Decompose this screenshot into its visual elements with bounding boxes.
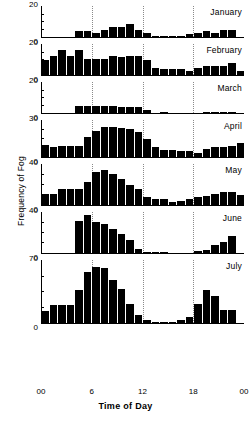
bar bbox=[118, 57, 126, 75]
bar bbox=[237, 71, 245, 76]
panel-month-label: May bbox=[225, 165, 242, 175]
bar bbox=[169, 36, 177, 38]
plot-area: March bbox=[41, 82, 244, 114]
bar bbox=[84, 137, 92, 157]
x-axis-spine bbox=[41, 253, 244, 254]
bar bbox=[135, 56, 143, 76]
y-tick-max: 40 bbox=[22, 159, 38, 167]
bar bbox=[67, 189, 75, 205]
bar bbox=[220, 30, 228, 38]
y-tick-max: 70 bbox=[22, 255, 38, 263]
bar bbox=[211, 112, 219, 114]
bar bbox=[109, 174, 117, 205]
bar bbox=[101, 224, 109, 253]
plot-area: May bbox=[41, 164, 244, 206]
bar bbox=[228, 30, 236, 38]
bar bbox=[228, 146, 236, 157]
x-axis-spine bbox=[41, 323, 244, 324]
x-axis-spine bbox=[41, 37, 244, 38]
bar bbox=[143, 320, 151, 323]
bar bbox=[58, 305, 66, 323]
x-tick-label: 12 bbox=[138, 387, 147, 396]
bar bbox=[143, 60, 151, 75]
bar bbox=[126, 24, 134, 38]
bar bbox=[101, 170, 109, 205]
bar bbox=[203, 31, 211, 37]
bar bbox=[126, 129, 134, 157]
x-tick-label: 00 bbox=[37, 387, 46, 396]
bar bbox=[228, 112, 236, 114]
bar bbox=[135, 107, 143, 113]
bar bbox=[228, 192, 236, 205]
bar bbox=[194, 197, 202, 205]
bar bbox=[75, 106, 83, 114]
bar bbox=[228, 310, 236, 323]
bar bbox=[186, 317, 194, 323]
bar bbox=[101, 106, 109, 114]
bar bbox=[92, 172, 100, 205]
panel-june: 400June bbox=[22, 212, 244, 258]
bar bbox=[75, 146, 83, 157]
bar bbox=[67, 305, 75, 323]
bar bbox=[50, 194, 58, 205]
bar bbox=[92, 106, 100, 114]
bar bbox=[186, 199, 194, 205]
bar bbox=[160, 322, 168, 323]
bar bbox=[75, 189, 83, 205]
bar bbox=[220, 310, 228, 323]
bar bbox=[143, 110, 151, 113]
panel-february: 200February bbox=[22, 44, 244, 80]
panel-month-label: June bbox=[223, 213, 242, 223]
bar bbox=[84, 182, 92, 205]
bar bbox=[50, 56, 58, 76]
bar bbox=[41, 194, 49, 205]
bar bbox=[177, 320, 185, 323]
bar bbox=[169, 150, 177, 157]
bar bbox=[118, 234, 126, 253]
bar bbox=[101, 127, 109, 157]
bar bbox=[41, 60, 49, 75]
bar bbox=[211, 194, 219, 205]
bar-series bbox=[41, 164, 244, 205]
bar bbox=[135, 315, 143, 323]
y-tick-max: 40 bbox=[22, 207, 38, 215]
bar bbox=[237, 195, 245, 205]
bar bbox=[160, 199, 168, 205]
panel-january: 200January bbox=[22, 6, 244, 42]
bar bbox=[135, 189, 143, 205]
bar bbox=[84, 215, 92, 253]
y-tick-max: 30 bbox=[22, 115, 38, 123]
x-axis-spine bbox=[41, 205, 244, 206]
bar bbox=[126, 56, 134, 76]
bar bbox=[143, 139, 151, 157]
panel-month-label: March bbox=[217, 83, 242, 93]
bar bbox=[203, 250, 211, 253]
bar bbox=[41, 145, 49, 157]
bar bbox=[126, 240, 134, 253]
bar bbox=[160, 69, 168, 75]
bar bbox=[228, 236, 236, 253]
bar bbox=[58, 50, 66, 76]
bar bbox=[203, 290, 211, 323]
x-axis-label: Time of Day bbox=[0, 401, 251, 411]
bar bbox=[135, 249, 143, 253]
plot-area: July bbox=[41, 260, 244, 324]
bar bbox=[160, 36, 168, 38]
bar bbox=[109, 106, 117, 114]
plot-area: January bbox=[41, 6, 244, 38]
bar bbox=[126, 304, 134, 323]
bar bbox=[118, 179, 126, 205]
bar bbox=[152, 252, 160, 253]
bar bbox=[152, 68, 160, 76]
bar bbox=[101, 30, 109, 38]
bar bbox=[109, 56, 117, 76]
bar bbox=[203, 112, 211, 114]
x-axis-ticks: 006121800 bbox=[41, 387, 244, 399]
bar bbox=[75, 31, 83, 37]
plot-area: February bbox=[41, 44, 244, 76]
bar bbox=[220, 112, 228, 114]
bar bbox=[211, 147, 219, 157]
bar-series bbox=[41, 120, 244, 157]
bar bbox=[177, 36, 185, 38]
bar-series bbox=[41, 260, 244, 323]
